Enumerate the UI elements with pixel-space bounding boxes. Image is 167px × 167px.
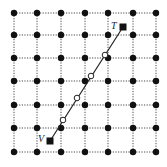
grid-node	[58, 149, 64, 155]
grid-node	[105, 125, 111, 131]
grid-node	[58, 55, 64, 61]
grid-node	[130, 32, 136, 38]
grid-node	[105, 10, 111, 16]
grid-node	[153, 55, 159, 61]
grid-node	[105, 102, 111, 108]
start-label: V	[38, 133, 46, 144]
grid-node	[153, 149, 159, 155]
grid-node	[82, 32, 88, 38]
grid-node	[11, 55, 17, 61]
grid-node	[130, 149, 136, 155]
crossing-point	[88, 73, 94, 79]
grid-node	[11, 10, 17, 16]
end-node-t	[120, 24, 127, 31]
grid-node	[58, 78, 64, 84]
grid-node	[82, 125, 88, 131]
grid-node	[11, 149, 17, 155]
grid-node	[82, 102, 88, 108]
grid-node	[11, 125, 17, 131]
grid-node	[153, 125, 159, 131]
grid-node	[82, 10, 88, 16]
crossing-point	[74, 95, 80, 101]
grid-node	[34, 149, 40, 155]
grid-node	[130, 102, 136, 108]
crossing-point	[102, 52, 108, 58]
grid-node	[34, 55, 40, 61]
start-node-v	[47, 138, 54, 145]
grid-node	[105, 149, 111, 155]
grid-node	[82, 55, 88, 61]
grid-node	[34, 78, 40, 84]
grid-node	[34, 32, 40, 38]
grid-node	[11, 102, 17, 108]
crossing-point	[60, 117, 66, 123]
grid-node	[11, 78, 17, 84]
grid-node	[58, 10, 64, 16]
grid-node	[34, 10, 40, 16]
grid-node	[130, 125, 136, 131]
end-label: T	[111, 20, 118, 31]
grid-node	[130, 10, 136, 16]
grid-diagram: V T	[0, 0, 167, 167]
grid-node	[153, 102, 159, 108]
grid-node	[11, 32, 17, 38]
grid-node	[105, 78, 111, 84]
grid-node	[153, 32, 159, 38]
grid-node	[34, 125, 40, 131]
grid-node	[34, 102, 40, 108]
grid-node	[130, 78, 136, 84]
grid-node	[58, 32, 64, 38]
grid-node	[58, 102, 64, 108]
grid-node	[130, 55, 136, 61]
grid-node	[153, 10, 159, 16]
grid-node	[153, 78, 159, 84]
grid-node	[82, 149, 88, 155]
grid-node	[105, 32, 111, 38]
